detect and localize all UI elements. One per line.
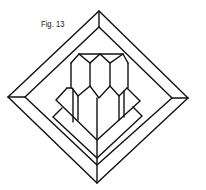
crystal-diamond-diagram — [0, 0, 206, 190]
crystal-lower-zigzag — [67, 86, 127, 98]
inner-diamond — [25, 27, 172, 165]
crystal-top-zigzag — [71, 54, 128, 63]
